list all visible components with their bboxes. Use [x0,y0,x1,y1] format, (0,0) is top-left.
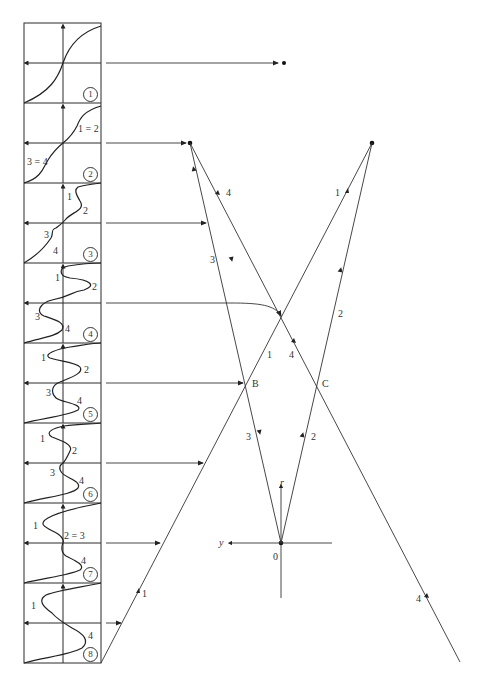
origin-label: 0 [273,552,278,562]
ray-label-1-bottom: 1 [142,589,147,599]
panel-4-label-1: 1 [55,273,60,283]
panel-number-2: 2 [83,167,98,182]
ray-label-3-lower: 3 [246,432,251,442]
panel-3-label-3: 3 [44,230,49,240]
panel-7-label-2-3: 2 = 3 [64,531,85,541]
point-label-b: B [252,379,259,389]
panel-7-label-4: 4 [81,556,86,566]
panel-5-label-2: 2 [84,365,89,375]
panel-6-label-4: 4 [79,476,84,486]
panel-number-5: 5 [83,407,98,422]
panel-4-label-3: 3 [35,312,40,322]
ray-label-1-upper: 1 [335,188,340,198]
point-label-c: C [322,379,329,389]
panel-3-label-4: 4 [53,246,58,256]
diagram-canvas [0,0,485,683]
panel-7-label-1: 1 [33,521,38,531]
panel-number-4: 4 [83,327,98,342]
panel-number-7: 7 [83,567,98,582]
panel-5-label-4: 4 [77,396,82,406]
panel-6-label-3: 3 [50,468,55,478]
panel-number-1: 1 [83,87,98,102]
axis-label-y: y [219,538,223,548]
panel-number-8: 8 [83,647,98,662]
panel-5-label-1: 1 [41,353,46,363]
panel-4-label-4: 4 [65,324,70,334]
axis-label-r: r [280,478,284,488]
panel-8-label-1: 1 [31,601,36,611]
panel-number-6: 6 [83,487,98,502]
panel-to-ray-arrows [106,61,286,623]
panel-6-label-1: 1 [40,434,45,444]
panel-5-label-3: 3 [46,388,51,398]
ray-diagram [101,141,460,663]
ray-label-4-bottom: 4 [416,594,421,604]
ray-label-3-upper: 3 [210,255,215,265]
panel-2-label-3-4: 3 = 4 [27,157,48,167]
ray-label-1-mid: 1 [267,350,272,360]
ray-label-4-mid: 4 [289,350,294,360]
panel-4-label-2: 2 [92,282,97,292]
panel-6-label-2: 2 [72,446,77,456]
panel-3-label-1: 1 [67,192,72,202]
panel-3-label-2: 2 [83,206,88,216]
panel-8-label-4: 4 [88,631,93,641]
ray-label-2-upper: 2 [338,309,343,319]
panel-number-3: 3 [83,247,98,262]
ray-label-4-upper: 4 [226,188,231,198]
panel-2-label-1-2: 1 = 2 [78,124,99,134]
ray-label-2-lower: 2 [311,432,316,442]
